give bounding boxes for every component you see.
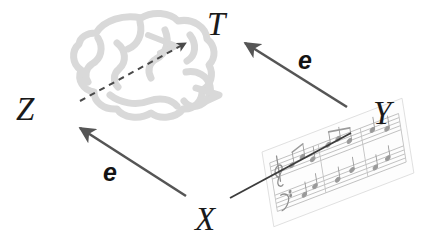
edge-label-y-to-t: e [298,48,312,73]
edge-y-to-t [245,43,347,107]
edge-label-x-to-z: e [103,160,117,185]
diagram-canvas: T Z Y X e e [0,0,422,251]
edge-x-to-y [230,133,351,198]
edge-x-to-z [80,128,186,196]
node-label-y: Y [373,97,391,130]
node-label-z: Z [16,93,34,126]
node-label-t: T [207,8,225,41]
edge-z-to-t-dashed [80,43,186,101]
node-label-x: X [195,203,215,236]
